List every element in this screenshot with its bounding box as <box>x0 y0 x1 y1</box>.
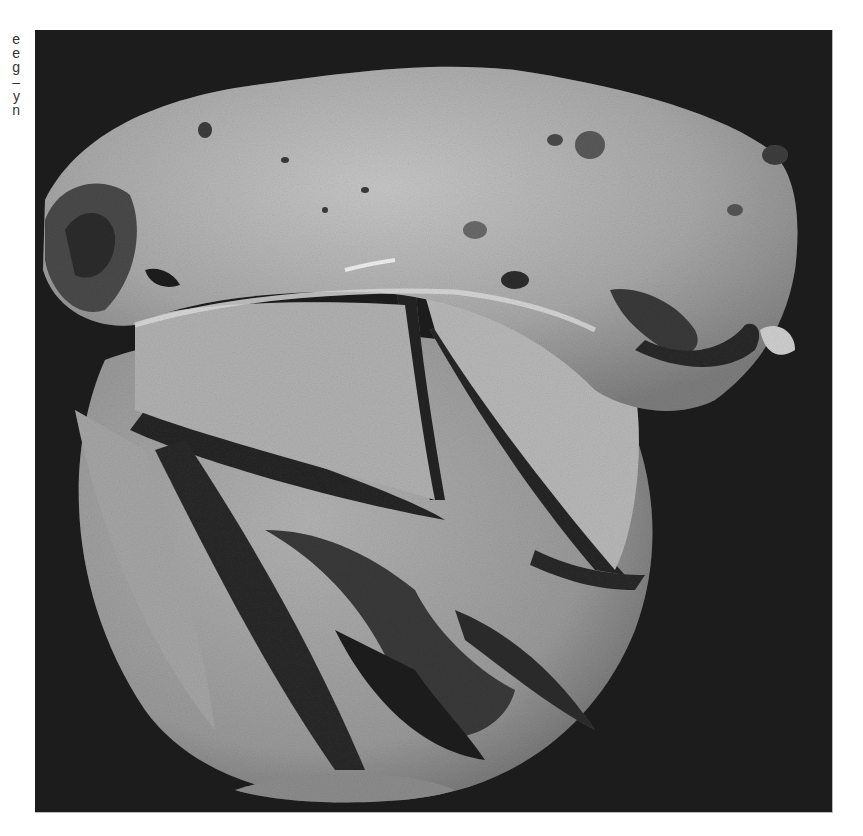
caption-line: g <box>0 60 20 74</box>
caption-line: – <box>0 75 20 89</box>
specimen-photo <box>35 30 833 813</box>
caption-fragment: e e g – y n <box>0 32 20 117</box>
caption-line: e <box>0 32 20 46</box>
caption-line: e <box>0 46 20 60</box>
caption-line: n <box>0 103 20 117</box>
specimen-illustration <box>35 30 832 812</box>
caption-line: y <box>0 89 20 103</box>
